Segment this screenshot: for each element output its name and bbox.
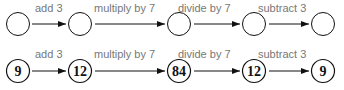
node-empty xyxy=(168,13,191,36)
operation-label: divide by 7 xyxy=(178,48,231,60)
node-value: 12 xyxy=(247,64,261,79)
node-value: 12 xyxy=(73,64,87,79)
operation-label: subtract 3 xyxy=(258,48,306,60)
operation-label: add 3 xyxy=(35,48,63,60)
operation-label: subtract 3 xyxy=(258,2,306,14)
node-value: 84 xyxy=(172,64,186,79)
node-empty xyxy=(69,13,92,36)
operation-label: multiply by 7 xyxy=(94,2,155,14)
operation-label: add 3 xyxy=(35,2,63,14)
node-empty xyxy=(243,13,266,36)
top-row: add 3 multiply by 7 divide by 7 subtract… xyxy=(7,2,335,36)
node-value: 9 xyxy=(320,64,327,79)
node-empty xyxy=(7,13,30,36)
inverse-operations-diagram: add 3 multiply by 7 divide by 7 subtract… xyxy=(0,0,344,90)
node-value: 9 xyxy=(15,64,22,79)
operation-label: multiply by 7 xyxy=(94,48,155,60)
bottom-row: 9 12 84 12 9 add 3 multiply by 7 divide … xyxy=(7,48,335,83)
operation-label: divide by 7 xyxy=(178,2,231,14)
node-empty xyxy=(312,13,335,36)
